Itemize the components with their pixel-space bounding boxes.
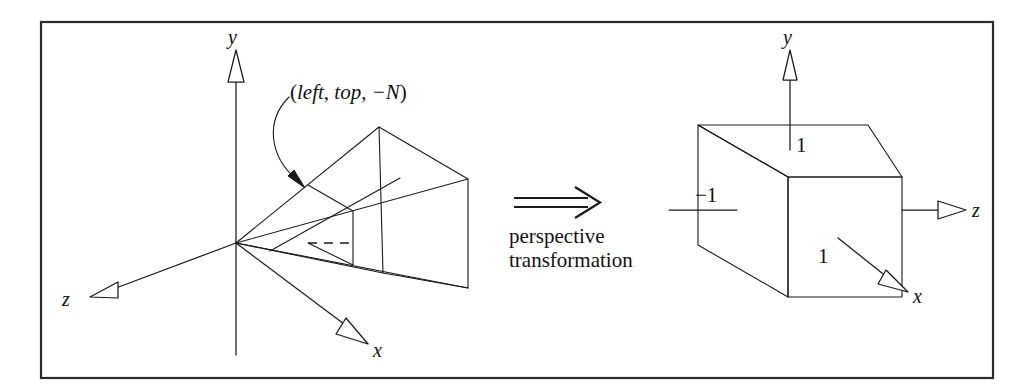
- transform-arrow-group: [514, 187, 600, 218]
- cube-left-face: [698, 125, 788, 297]
- frustum-ray-bottom-front: [236, 243, 468, 288]
- frustum-z-axis: [108, 243, 236, 291]
- frustum-far-plane: [379, 127, 468, 288]
- annotation-top-token: top: [334, 80, 361, 104]
- caption-line-1: perspective: [509, 224, 605, 248]
- cube-x-negative-tick-label: −1: [695, 183, 717, 207]
- frustum-z-axis-arrowhead: [90, 282, 118, 298]
- frustum-near-plane: [308, 185, 353, 265]
- cube-z-axis-label: z: [971, 199, 980, 221]
- cube-x-axis-label: x: [912, 285, 922, 307]
- transform-arrow-head: [575, 187, 600, 218]
- perspective-transformation-figure: y z x: [0, 0, 1030, 392]
- figure-page: y z x: [0, 0, 1030, 392]
- figure-border: [41, 22, 993, 378]
- annotation-negative-n-token: −N: [372, 80, 401, 104]
- frustum-z-axis-label: z: [61, 288, 70, 310]
- annotation-close-paren: ): [400, 80, 407, 104]
- cube-z-axis-arrowhead: [938, 201, 966, 219]
- cube-y-axis-arrowhead: [783, 50, 797, 80]
- annotation-open-paren: (: [290, 80, 297, 104]
- annotation-leader-arrowhead: [288, 170, 305, 188]
- frustum-corner-annotation: (left, top, −N): [290, 80, 407, 104]
- canonical-cube-group: y 1 z −1 x 1: [669, 26, 980, 307]
- annotation-leader-curve: [273, 97, 297, 180]
- cube-y-tick-label: 1: [796, 133, 807, 157]
- frustum-top-left-depth-edge: [270, 178, 400, 251]
- cube-x-tick-label: 1: [818, 244, 829, 268]
- frustum-x-axis-label: x: [372, 339, 382, 361]
- view-frustum-group: y z x: [61, 26, 468, 361]
- annotation-sep-2: ,: [361, 80, 372, 104]
- annotation-left-token: left: [297, 80, 325, 104]
- frustum-y-axis-label: y: [226, 26, 237, 49]
- annotation-sep-1: ,: [324, 80, 335, 104]
- cube-y-axis-label: y: [781, 26, 792, 49]
- frustum-y-axis-arrowhead: [228, 50, 244, 82]
- caption-line-2: transformation: [509, 248, 633, 272]
